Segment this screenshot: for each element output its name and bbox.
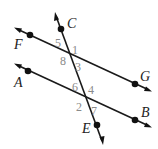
label-e: E bbox=[81, 121, 91, 136]
label-f: F bbox=[13, 37, 23, 52]
point-a bbox=[25, 68, 32, 75]
parallel-lines-diagram: C F G A B E 5 1 8 3 6 4 2 7 bbox=[0, 0, 158, 149]
point-e bbox=[94, 122, 101, 129]
arrowhead-f-end bbox=[14, 28, 22, 34]
arrowhead-c-end bbox=[54, 12, 59, 21]
point-b bbox=[132, 117, 139, 124]
point-f bbox=[27, 32, 34, 39]
label-b: B bbox=[141, 105, 150, 120]
line-fg bbox=[14, 28, 152, 92]
angle-6-label: 6 bbox=[72, 80, 78, 94]
angle-1-label: 1 bbox=[72, 43, 78, 57]
angle-2-label: 2 bbox=[76, 100, 82, 114]
angle-7-label: 7 bbox=[91, 104, 97, 118]
angle-4-label: 4 bbox=[88, 83, 94, 97]
arrowhead-g-end bbox=[144, 87, 152, 92]
arrowhead-e-end bbox=[100, 136, 105, 145]
angle-5-label: 5 bbox=[55, 36, 61, 50]
arrowhead-a-end bbox=[14, 64, 22, 70]
label-g: G bbox=[140, 69, 150, 84]
line-ab bbox=[14, 64, 152, 128]
label-a: A bbox=[13, 75, 23, 90]
point-c bbox=[58, 26, 65, 33]
point-g bbox=[132, 81, 139, 88]
arrowhead-b-end bbox=[144, 123, 152, 128]
angle-3-label: 3 bbox=[75, 60, 81, 74]
label-c: C bbox=[67, 16, 77, 31]
angle-8-label: 8 bbox=[60, 54, 66, 68]
